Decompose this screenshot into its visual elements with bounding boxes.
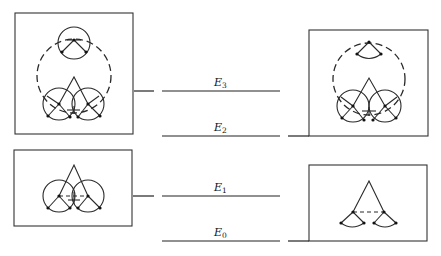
energy-level-diagram: E3 E2 E1 E0 [0,0,441,256]
inset-frame [309,165,427,241]
top-circle [58,27,90,59]
left-wedge-arc [341,223,364,227]
level-label-e2: E2 [213,121,227,135]
level-label-e1: E1 [213,181,227,195]
top-wedge-arc [357,54,381,59]
inset-frame [309,30,428,136]
level-label-e3: E3 [213,76,227,90]
level-label-e0: E0 [213,226,227,240]
inset-top-left [15,13,154,134]
energy-levels: E3 E2 E1 E0 [162,76,280,241]
triangle [353,181,384,212]
inset-frame [15,13,133,134]
inset-top-right [288,30,428,136]
triangle [59,77,88,104]
inset-bottom-right [288,165,427,241]
inset-bottom-left [14,150,154,226]
right-wedge-arc [374,223,396,227]
